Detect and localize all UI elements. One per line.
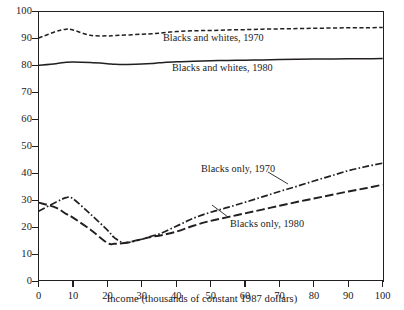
annotation-blacks-only-1980: Blacks only, 1980 (230, 218, 304, 229)
x-axis-title: Income (thousands of constant 1987 dolla… (0, 293, 404, 304)
annotation-blacks-only-1970: Blacks only, 1970 (201, 163, 275, 174)
annotation-blacks-and-whites-1980: Blacks and whites, 1980 (172, 62, 273, 73)
series-line (39, 163, 383, 243)
annotation-blacks-and-whites-1970: Blacks and whites, 1970 (163, 32, 264, 43)
series-layer (0, 0, 404, 310)
series-line (39, 185, 383, 245)
chart-container: 0102030405060708090100 01020304050607080… (0, 0, 404, 310)
